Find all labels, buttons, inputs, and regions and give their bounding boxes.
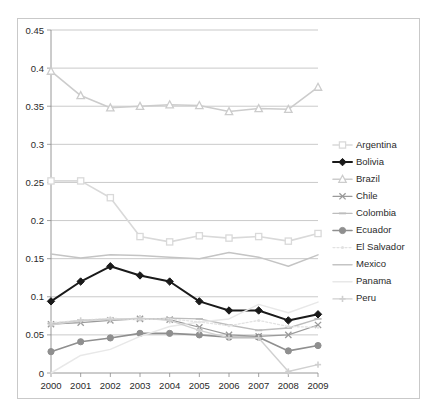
y-axis-tick-label: 0 xyxy=(39,368,44,379)
series-point xyxy=(107,195,113,201)
legend-swatch-marker xyxy=(339,296,345,302)
series-point xyxy=(167,239,173,245)
series-argentina xyxy=(48,178,321,245)
legend-item-ecuador[interactable]: Ecuador xyxy=(333,224,391,235)
series-line xyxy=(51,333,318,351)
series-point xyxy=(317,326,320,329)
series-point xyxy=(225,307,232,314)
y-axis-tick-label: 0.3 xyxy=(31,139,44,150)
series-point xyxy=(137,233,143,239)
y-axis-tick-labels: 00.050.10.150.20.250.30.350.40.45 xyxy=(26,25,45,379)
y-axis-tick-label: 0.15 xyxy=(26,253,45,264)
series-point xyxy=(196,233,202,239)
legend-swatch-marker xyxy=(341,246,344,249)
legend-item-panama[interactable]: Panama xyxy=(333,275,392,286)
legend-item-label: Colombia xyxy=(356,207,397,218)
x-axis-tick-label: 2007 xyxy=(248,380,269,391)
legend-item-label: Panama xyxy=(356,275,392,286)
y-axis-tick-label: 0.2 xyxy=(31,215,44,226)
series-point xyxy=(257,319,260,322)
series-point xyxy=(285,238,291,244)
series-point xyxy=(255,307,262,314)
series-point xyxy=(107,335,113,341)
series-mexico xyxy=(51,253,318,267)
legend-swatch-marker xyxy=(339,158,346,165)
legend-item-chile[interactable]: Chile xyxy=(333,190,378,201)
series-point xyxy=(315,230,321,236)
legend-item-label: Mexico xyxy=(356,258,386,269)
series-point xyxy=(314,311,321,318)
series-point xyxy=(315,342,321,348)
x-axis-tick-label: 2006 xyxy=(218,380,239,391)
legend-item-peru[interactable]: Peru xyxy=(333,292,376,303)
line-chart: 00.050.10.150.20.250.30.350.40.45 200020… xyxy=(0,0,438,416)
series-line xyxy=(51,266,318,320)
legend-item-argentina[interactable]: Argentina xyxy=(333,139,397,150)
series-point xyxy=(78,339,84,345)
series-point xyxy=(285,348,291,354)
legend-item-label: El Salvador xyxy=(356,241,405,252)
y-axis-tick-label: 0.4 xyxy=(31,63,44,74)
y-axis-tick-label: 0.45 xyxy=(26,25,45,36)
series-point xyxy=(256,233,262,239)
x-axis-tick-label: 2003 xyxy=(129,380,150,391)
x-axis-tick-label: 2000 xyxy=(40,380,61,391)
series-point xyxy=(226,235,232,241)
chart-legend: ArgentinaBoliviaBrazilChileColombiaEcuad… xyxy=(333,139,405,304)
series-point xyxy=(167,330,173,336)
series-point xyxy=(228,324,231,327)
legend-swatch-marker xyxy=(339,142,345,148)
series-point xyxy=(285,317,292,324)
legend-item-label: Ecuador xyxy=(356,224,391,235)
series-point xyxy=(107,263,114,270)
series-bolivia xyxy=(47,263,321,325)
legend-item-bolivia[interactable]: Bolivia xyxy=(333,156,385,167)
legend-item-label: Argentina xyxy=(356,139,397,150)
x-axis-tick-label: 2005 xyxy=(189,380,210,391)
x-axis-tick-labels: 2000200120022003200420052006200720082009 xyxy=(40,380,328,391)
series-point xyxy=(78,178,84,184)
legend-swatch-marker xyxy=(339,227,345,233)
data-series xyxy=(47,67,321,374)
y-axis-tick-label: 0.35 xyxy=(26,101,45,112)
gridlines xyxy=(51,30,318,335)
legend-item-label: Chile xyxy=(356,190,378,201)
series-point xyxy=(314,83,321,90)
legend-item-label: Brazil xyxy=(356,173,380,184)
series-brazil xyxy=(47,67,321,114)
y-axis-tick-label: 0.1 xyxy=(31,291,44,302)
series-line xyxy=(51,302,318,373)
series-point xyxy=(48,349,54,355)
series-point xyxy=(136,272,143,279)
chart-container: 00.050.10.150.20.250.30.350.40.45 200020… xyxy=(0,0,438,416)
x-axis-tick-label: 2008 xyxy=(278,380,299,391)
x-axis-tick-label: 2001 xyxy=(70,380,91,391)
series-point xyxy=(287,325,290,328)
x-axis-tick-label: 2009 xyxy=(307,380,328,391)
legend-item-label: Bolivia xyxy=(356,156,385,167)
y-axis-tick-label: 0.25 xyxy=(26,177,45,188)
series-line xyxy=(51,181,318,242)
legend-item-label: Peru xyxy=(356,292,376,303)
series-line xyxy=(51,253,318,267)
legend-item-brazil[interactable]: Brazil xyxy=(333,173,380,184)
x-axis-tick-label: 2004 xyxy=(159,380,180,391)
y-axis-tick-label: 0.05 xyxy=(26,329,45,340)
series-line xyxy=(51,318,318,371)
series-ecuador xyxy=(48,330,321,354)
x-axis-tick-label: 2002 xyxy=(100,380,121,391)
legend-item-mexico[interactable]: Mexico xyxy=(333,258,386,269)
series-line xyxy=(51,71,318,111)
series-panama xyxy=(51,302,318,373)
series-point xyxy=(48,178,54,184)
legend-item-el-salvador[interactable]: El Salvador xyxy=(333,241,405,252)
series-point xyxy=(315,362,321,368)
legend-item-colombia[interactable]: Colombia xyxy=(333,207,397,218)
